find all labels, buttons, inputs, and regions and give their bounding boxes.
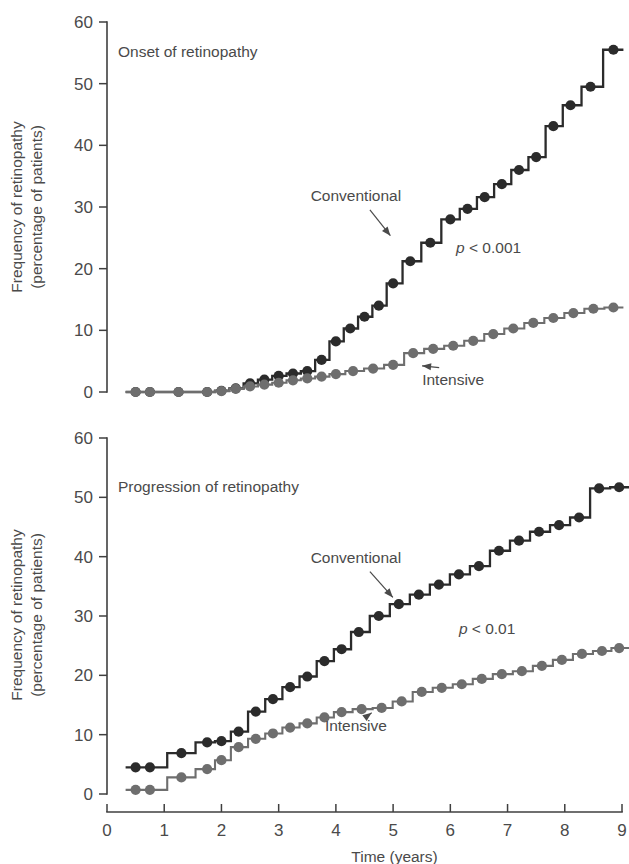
- x-tick-label: 7: [503, 821, 512, 840]
- data-point: [316, 355, 326, 365]
- data-point: [285, 722, 295, 732]
- data-point: [231, 384, 241, 394]
- y-tick-label: 40: [74, 136, 93, 155]
- data-point: [245, 381, 255, 391]
- data-point: [374, 301, 384, 311]
- data-point: [173, 387, 183, 397]
- data-point: [268, 694, 278, 704]
- data-point: [608, 45, 618, 55]
- data-point: [497, 179, 507, 189]
- data-point: [494, 546, 504, 556]
- y-tick-label: 20: [74, 666, 93, 685]
- data-point: [614, 643, 624, 653]
- series-label-conventional: Conventional: [311, 549, 401, 566]
- data-point: [374, 611, 384, 621]
- pvalue-p-symbol: p: [455, 239, 465, 256]
- data-point: [614, 482, 624, 492]
- callout-arrow-head: [382, 226, 390, 235]
- data-point: [408, 348, 418, 358]
- data-point: [319, 656, 329, 666]
- y-axis-title: Frequency of retinopathy(percentage of p…: [8, 121, 45, 293]
- data-point: [337, 644, 347, 654]
- series-callout-conventional-onset: Conventional: [311, 187, 401, 236]
- data-point: [468, 336, 478, 346]
- x-tick-label: 1: [159, 821, 168, 840]
- data-point: [548, 313, 558, 323]
- data-point: [437, 683, 447, 693]
- data-point: [216, 386, 226, 396]
- y-tick-label: 60: [74, 430, 93, 448]
- data-point: [474, 561, 484, 571]
- data-point: [568, 308, 578, 318]
- data-point: [216, 736, 226, 746]
- y-axis-title-line1: Frequency of retinopathy: [8, 529, 25, 701]
- data-point: [388, 278, 398, 288]
- pvalue-text: p < 0.01: [458, 620, 515, 637]
- panel-title-onset: Onset of retinopathy: [118, 43, 258, 60]
- x-tick-label: 4: [331, 821, 340, 840]
- data-point: [565, 100, 575, 110]
- callout-arrow-head: [422, 363, 431, 370]
- y-tick-label: 40: [74, 548, 93, 567]
- data-point: [434, 579, 444, 589]
- data-point: [345, 323, 355, 333]
- y-tick-label: 0: [84, 383, 93, 402]
- data-point: [234, 727, 244, 737]
- series-intensive-onset: [126, 302, 624, 397]
- y-tick-label: 0: [84, 785, 93, 804]
- y-axis-title-line1: Frequency of retinopathy: [8, 121, 25, 293]
- x-tick-label: 0: [102, 821, 111, 840]
- data-point: [414, 590, 424, 600]
- data-point: [394, 599, 404, 609]
- data-point: [397, 696, 407, 706]
- data-point: [176, 772, 186, 782]
- series-callout-intensive-onset: Intensive: [422, 363, 484, 387]
- data-point: [176, 748, 186, 758]
- data-point: [557, 655, 567, 665]
- data-point: [534, 527, 544, 537]
- data-point: [359, 312, 369, 322]
- data-point: [548, 121, 558, 131]
- pvalue-p-symbol: p: [458, 620, 468, 637]
- data-point: [348, 366, 358, 376]
- chart-panel-onset: 0102030405060Frequency of retinopathy(pe…: [0, 0, 629, 430]
- data-point: [131, 762, 141, 772]
- x-tick-label: 9: [617, 821, 626, 840]
- data-point: [145, 785, 155, 795]
- data-point: [316, 371, 326, 381]
- data-point: [145, 387, 155, 397]
- data-point: [585, 82, 595, 92]
- y-axis-title-line2: (percentage of patients): [28, 125, 45, 289]
- x-tick-label: 2: [217, 821, 226, 840]
- data-point: [417, 687, 427, 697]
- data-point: [574, 512, 584, 522]
- data-point: [357, 704, 367, 714]
- chart-svg-progression: 01020304050600123456789Time (years)Frequ…: [0, 430, 629, 864]
- y-tick-label: 30: [74, 198, 93, 217]
- x-tick-label: 3: [274, 821, 283, 840]
- data-point: [337, 707, 347, 717]
- y-tick-label: 10: [74, 726, 93, 745]
- data-point: [259, 380, 269, 390]
- data-point: [488, 329, 498, 339]
- data-point: [597, 646, 607, 656]
- pvalue-comparison: < 0.001: [465, 239, 521, 256]
- chart-svg-onset: 0102030405060Frequency of retinopathy(pe…: [0, 0, 629, 430]
- data-point: [131, 785, 141, 795]
- data-point: [594, 483, 604, 493]
- data-point: [131, 387, 141, 397]
- y-tick-label: 50: [74, 75, 93, 94]
- data-point: [508, 323, 518, 333]
- data-point: [274, 378, 284, 388]
- data-point: [202, 764, 212, 774]
- data-point: [368, 363, 378, 373]
- data-point: [302, 718, 312, 728]
- pvalue-text: p < 0.001: [455, 239, 521, 256]
- series-label-intensive: Intensive: [325, 717, 387, 734]
- data-point: [285, 682, 295, 692]
- data-point: [514, 165, 524, 175]
- data-point: [480, 192, 490, 202]
- y-tick-label: 50: [74, 488, 93, 507]
- data-point: [202, 737, 212, 747]
- y-axis-title-line2: (percentage of patients): [28, 533, 45, 697]
